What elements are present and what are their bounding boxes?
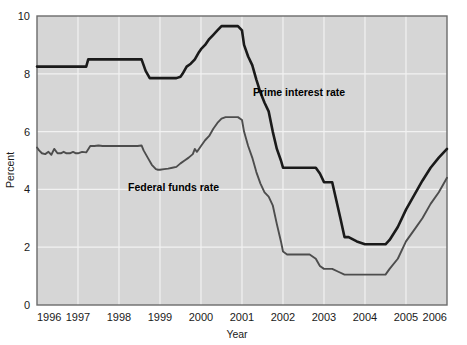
x-tick-label: 1997 [66,311,90,323]
x-tick-label: 1999 [148,311,172,323]
x-tick-label: 2006 [423,311,447,323]
chart-container: 0246810 19961997199819992000200120022003… [0,0,467,345]
y-tick-label: 6 [24,126,30,138]
y-axis-title: Percent [4,152,16,188]
series-label-federal-funds-rate: Federal funds rate [128,181,219,193]
x-tick-label: 1998 [107,311,131,323]
x-tick-label: 2001 [230,311,254,323]
y-tick-label: 4 [24,183,30,195]
x-tick-label: 2005 [394,311,418,323]
y-tick-label: 0 [24,299,30,311]
y-tick-label: 8 [24,68,30,80]
x-tick-label: 2000 [189,311,213,323]
series-label-prime-interest-rate: Prime interest rate [253,86,345,98]
x-tick-label: 2002 [271,311,295,323]
y-tick-label: 2 [24,241,30,253]
y-tick-label: 10 [18,10,30,22]
x-tick-label: 1996 [37,311,61,323]
line-chart: 0246810 19961997199819992000200120022003… [0,0,467,345]
x-tick-label: 2004 [353,311,377,323]
x-tick-label: 2003 [312,311,336,323]
x-axis-title: Year [226,328,248,340]
